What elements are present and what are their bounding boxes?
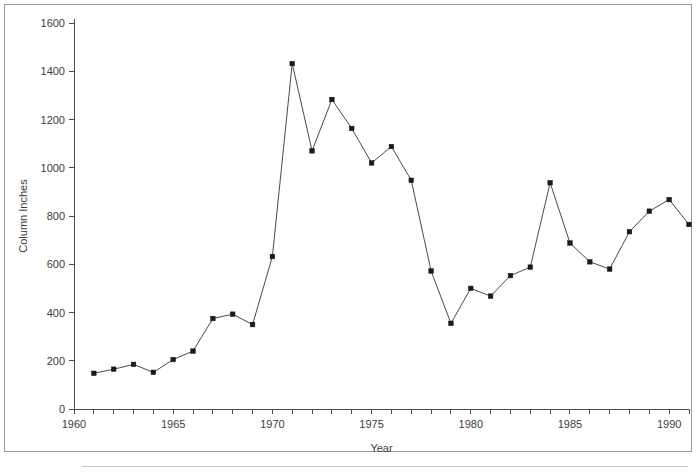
data-point-marker bbox=[548, 180, 553, 185]
series-line-column-inches bbox=[94, 64, 689, 374]
data-point-marker bbox=[607, 267, 612, 272]
data-point-marker bbox=[290, 61, 295, 66]
y-axis-tick-label: 400 bbox=[47, 307, 65, 319]
x-axis-tick-label: 1975 bbox=[359, 418, 383, 430]
data-point-marker bbox=[310, 149, 315, 154]
data-point-marker bbox=[468, 286, 473, 291]
data-point-marker bbox=[449, 321, 454, 326]
x-axis-tick-label: 1965 bbox=[161, 418, 185, 430]
y-axis-title: Column Inches bbox=[17, 179, 29, 253]
y-axis-tick-label: 1400 bbox=[41, 65, 65, 77]
x-axis-tick-label: 1990 bbox=[657, 418, 681, 430]
data-point-marker bbox=[508, 273, 513, 278]
data-point-marker bbox=[429, 269, 434, 274]
data-point-marker bbox=[171, 357, 176, 362]
data-point-marker bbox=[151, 370, 156, 375]
data-point-marker bbox=[330, 97, 335, 102]
data-point-marker bbox=[488, 294, 493, 299]
y-axis: 02004006008001000120014001600 bbox=[41, 17, 74, 415]
data-point-marker bbox=[131, 362, 136, 367]
y-axis-tick-label: 1200 bbox=[41, 114, 65, 126]
data-point-marker bbox=[250, 322, 255, 327]
data-point-marker bbox=[230, 312, 235, 317]
data-point-marker bbox=[409, 178, 414, 183]
data-series bbox=[92, 61, 692, 375]
data-point-marker bbox=[191, 349, 196, 354]
data-point-marker bbox=[528, 265, 533, 270]
x-axis-title: Year bbox=[370, 442, 393, 453]
data-point-marker bbox=[369, 161, 374, 166]
line-chart: 02004006008001000120014001600 1960196519… bbox=[5, 5, 693, 453]
data-point-marker bbox=[647, 209, 652, 214]
figure-frame: 02004006008001000120014001600 1960196519… bbox=[4, 4, 692, 452]
data-point-marker bbox=[211, 316, 216, 321]
y-axis-tick-label: 600 bbox=[47, 258, 65, 270]
data-point-marker bbox=[568, 241, 573, 246]
data-point-marker bbox=[627, 229, 632, 234]
bottom-divider bbox=[82, 466, 688, 467]
data-point-marker bbox=[588, 260, 593, 265]
y-axis-tick-label: 0 bbox=[59, 403, 65, 415]
data-point-marker bbox=[389, 144, 394, 149]
y-axis-tick-label: 200 bbox=[47, 355, 65, 367]
x-axis-tick-label: 1970 bbox=[260, 418, 284, 430]
y-axis-tick-label: 1600 bbox=[41, 17, 65, 29]
x-axis-tick-label: 1960 bbox=[62, 418, 86, 430]
data-point-marker bbox=[667, 197, 672, 202]
y-axis-tick-label: 800 bbox=[47, 210, 65, 222]
data-point-marker bbox=[111, 367, 116, 372]
x-axis: 1960196519701975198019851990 bbox=[62, 409, 689, 430]
data-point-marker bbox=[349, 126, 354, 131]
data-point-marker bbox=[92, 371, 97, 376]
y-axis-tick-label: 1000 bbox=[41, 162, 65, 174]
data-point-marker bbox=[687, 222, 692, 227]
data-point-marker bbox=[270, 254, 275, 259]
x-axis-tick-label: 1980 bbox=[459, 418, 483, 430]
x-axis-tick-label: 1985 bbox=[558, 418, 582, 430]
